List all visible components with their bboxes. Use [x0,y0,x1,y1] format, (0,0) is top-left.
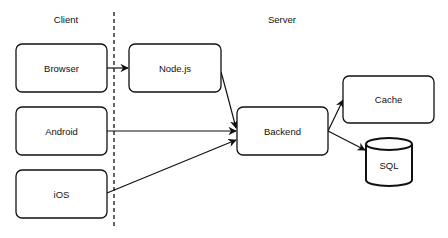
node-ios[interactable]: iOS [16,170,107,218]
node-android[interactable]: Android [16,107,107,155]
node-sql[interactable]: SQL [366,138,412,186]
server-section-label: Server [268,14,296,25]
node-backend-label: Backend [264,126,301,137]
node-cache[interactable]: Cache [343,76,434,123]
node-nodejs-label: Node.js [159,63,191,74]
node-cache-label: Cache [375,94,402,105]
client-section-label: Client [54,14,79,25]
node-browser[interactable]: Browser [16,44,107,92]
node-backend[interactable]: Backend [237,107,328,155]
edge-backend-sql [328,131,365,150]
edge-nodejs-backend [221,72,236,128]
node-browser-label: Browser [44,63,79,74]
node-sql-label: SQL [379,160,398,171]
architecture-diagram: Client Server Browser Node.js Android iO… [0,0,448,238]
edge-backend-cache [328,100,343,131]
node-android-label: Android [45,126,78,137]
database-icon-top [366,138,412,150]
node-ios-label: iOS [54,189,70,200]
edge-ios-backend [107,140,236,193]
node-nodejs[interactable]: Node.js [129,44,221,92]
